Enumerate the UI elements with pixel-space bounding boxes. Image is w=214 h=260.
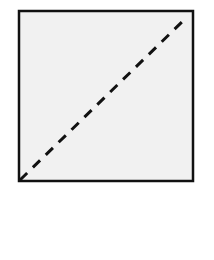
diagram-svg <box>0 0 214 260</box>
diagram-canvas <box>0 0 214 260</box>
